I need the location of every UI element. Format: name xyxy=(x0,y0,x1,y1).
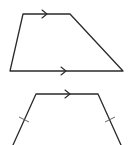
trapezoid-1-outline xyxy=(10,14,123,71)
trapezoid-2 xyxy=(13,90,121,145)
trapezoid-1 xyxy=(10,10,123,75)
diagram-canvas xyxy=(0,0,135,145)
trapezoid-2-outline xyxy=(13,94,121,145)
